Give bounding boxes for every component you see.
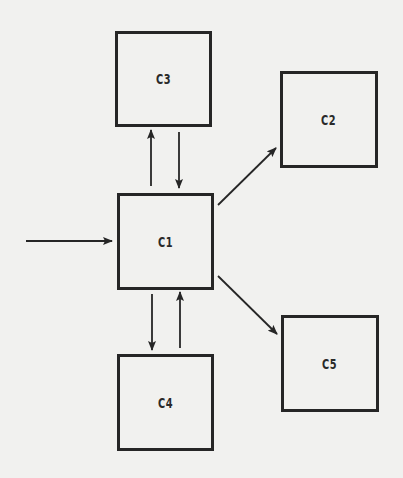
node-c1-label: C1 [158,234,173,250]
node-c2-label: C2 [322,112,337,128]
node-c4-label: C4 [158,395,173,411]
node-c5-label: C5 [323,356,338,372]
arrow-c1-to-c5 [218,276,277,334]
node-c1: C1 [117,193,214,290]
node-c3: C3 [115,31,212,127]
diagram-canvas: C1 C2 C3 C4 C5 [0,0,403,478]
node-c5: C5 [281,315,379,412]
node-c3-label: C3 [156,71,171,87]
node-c2: C2 [280,71,378,168]
node-c4: C4 [117,354,214,451]
arrow-c1-to-c2 [218,148,276,205]
